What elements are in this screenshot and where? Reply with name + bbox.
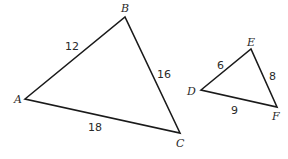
- side-label-ab: 12: [65, 40, 79, 53]
- side-label-de: 6: [217, 59, 224, 72]
- vertex-label-f: F: [271, 110, 280, 123]
- vertex-label-a: A: [13, 93, 22, 106]
- side-label-ac: 18: [88, 121, 102, 134]
- triangle-abc: A B C 12 16 18: [13, 2, 185, 150]
- side-label-df: 9: [231, 104, 238, 117]
- triangle-def: D E F 6 8 9: [186, 36, 280, 123]
- vertex-label-c: C: [176, 137, 185, 150]
- vertex-label-d: D: [186, 85, 196, 98]
- side-label-bc: 16: [157, 68, 171, 81]
- vertex-label-b: B: [120, 2, 129, 15]
- triangle-def-outline: [201, 49, 277, 107]
- similar-triangles-diagram: A B C 12 16 18 D E F 6 8 9: [0, 0, 288, 159]
- vertex-label-e: E: [246, 36, 255, 49]
- side-label-ef: 8: [269, 70, 276, 83]
